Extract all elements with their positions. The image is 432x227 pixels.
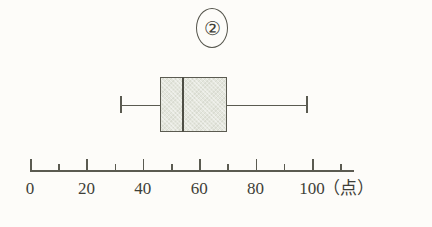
x-axis-tick-major — [312, 159, 314, 170]
x-axis-tick-minor — [227, 164, 229, 170]
x-axis-tick-major — [143, 159, 145, 170]
x-axis-tick-label: 80 — [247, 180, 264, 197]
plot-area: 020406080100 （点） — [0, 0, 432, 227]
x-axis-tick-label: 0 — [26, 180, 35, 197]
x-axis-tick-label: 100 — [299, 180, 325, 197]
x-axis-tick-minor — [284, 164, 286, 170]
x-axis-tick-major — [199, 159, 201, 170]
x-axis-tick-label: 40 — [134, 180, 151, 197]
whisker-right-line — [227, 105, 306, 107]
x-axis-unit-label: （点） — [323, 180, 374, 197]
x-axis-tick-major — [86, 159, 88, 170]
x-axis-tick-minor — [58, 164, 60, 170]
whisker-max-cap — [306, 96, 308, 113]
x-axis-line — [30, 170, 354, 172]
x-axis-tick-minor — [115, 164, 117, 170]
x-axis-tick-minor — [171, 164, 173, 170]
interquartile-box — [160, 77, 228, 132]
box-plot-figure: ② 020406080100 （点） — [0, 0, 432, 227]
whisker-min-cap — [120, 96, 122, 113]
x-axis-tick-major — [256, 159, 258, 170]
whisker-left-line — [120, 105, 159, 107]
x-axis-tick-major — [30, 159, 32, 170]
median-line — [182, 77, 184, 132]
x-axis-tick-label: 20 — [78, 180, 95, 197]
x-axis-tick-minor — [340, 164, 342, 170]
x-axis-tick-label: 60 — [191, 180, 208, 197]
